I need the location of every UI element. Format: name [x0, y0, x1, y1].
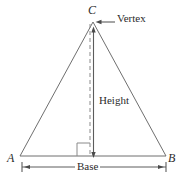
vertex-label-b: B — [168, 152, 175, 164]
height-arrowhead-top-icon — [91, 27, 95, 33]
triangle-diagram-svg — [0, 0, 183, 181]
vertex-label-c: C — [88, 4, 96, 16]
vertex-label-a: A — [7, 152, 14, 164]
right-angle-marker-icon — [77, 143, 90, 156]
height-arrowhead-bottom-icon — [91, 152, 95, 158]
height-label: Height — [99, 95, 129, 106]
base-label: Base — [75, 161, 100, 172]
base-arrowhead-right-icon — [158, 165, 164, 169]
vertex-callout-label: Vertex — [117, 13, 146, 24]
triangle-diagram-figure: C A B Vertex Height Base — [0, 0, 183, 181]
vertex-arrowhead-icon — [96, 20, 102, 24]
base-arrowhead-left-icon — [24, 165, 30, 169]
